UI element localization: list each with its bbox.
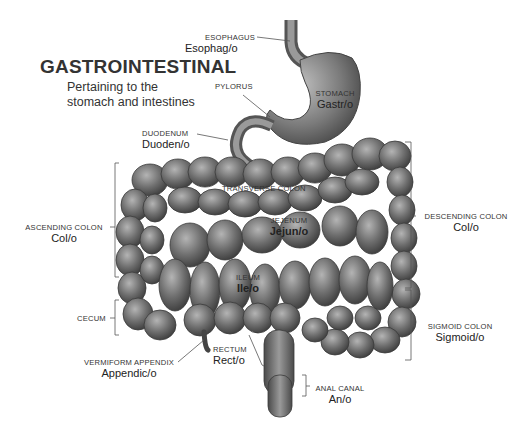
label-rectum: RECTUM Rect/o [213,345,247,366]
label-stomach: STOMACH Gastr/o [300,89,370,110]
label-descending-colon: DESCENDING COLON Col/o [416,212,516,233]
page-subtitle: Pertaining to the stomach and intestines [67,80,195,110]
subtitle-line-1: Pertaining to the [67,80,195,95]
label-vermiform-appendix: VERMIFORM APPENDIX Appendic/o [74,358,184,379]
label-transverse-colon: TRANSVERSE COLON [222,184,306,193]
label-cecum: CECUM [77,314,106,323]
subtitle-line-2: stomach and intestines [67,95,195,110]
rectum-shape [264,330,294,417]
label-jejunum: JEJENUM Jejun/o [264,216,314,237]
label-anal-canal: ANAL CANAL An/o [312,384,368,405]
label-pylorus: PYLORUS [215,82,253,91]
label-sigmoid-colon: SIGMOID COLON Sigmoid/o [416,322,504,343]
label-ileum: ILEUM Ile/o [228,273,268,294]
page-title: GASTROINTESTINAL [40,56,236,78]
appendix-shape [204,332,208,350]
label-duodenum: DUODENUM Duoden/o [142,129,190,150]
label-esophagus: ESOPHAGUS Esophag/o [185,33,255,54]
label-ascending-colon: ASCENDING COLON Col/o [18,223,110,244]
